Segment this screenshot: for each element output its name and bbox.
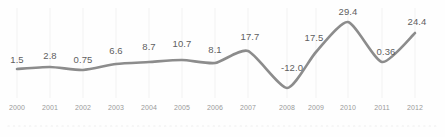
value-label-2002: 0.75 (74, 54, 93, 65)
x-tick-2009: 2009 (308, 104, 324, 111)
line-chart: 1.52.80.756.68.710.78.117.7-12.017.529.4… (0, 0, 445, 137)
value-label-2010: 29.4 (339, 6, 358, 17)
value-label-2003: 6.6 (109, 45, 123, 56)
value-label-2001: 2.8 (43, 50, 57, 61)
x-tick-2007: 2007 (240, 104, 256, 111)
x-tick-2011: 2011 (374, 104, 389, 111)
x-tick-2005: 2005 (174, 104, 190, 111)
value-label-2008: -12.0 (281, 62, 303, 73)
value-label-2000: 1.5 (10, 54, 24, 65)
x-tick-2002: 2002 (75, 104, 91, 111)
x-tick-2008: 2008 (279, 104, 295, 111)
x-tick-2012: 2012 (407, 104, 423, 111)
x-tick-2001: 2001 (42, 104, 58, 111)
value-label-2006: 8.1 (208, 44, 222, 55)
value-label-2005: 10.7 (173, 38, 192, 49)
x-tick-2010: 2010 (340, 104, 356, 111)
x-tick-2003: 2003 (108, 104, 124, 111)
value-label-2007: 17.7 (241, 31, 260, 42)
value-label-2004: 8.7 (142, 41, 156, 52)
chart-canvas (0, 0, 445, 137)
value-label-2012: 24.4 (408, 16, 427, 27)
x-tick-2004: 2004 (141, 104, 157, 111)
x-tick-2006: 2006 (207, 104, 223, 111)
x-tick-2000: 2000 (9, 104, 25, 111)
value-label-2009: 17.5 (305, 32, 324, 43)
value-label-2011: 0.36 (377, 46, 396, 57)
